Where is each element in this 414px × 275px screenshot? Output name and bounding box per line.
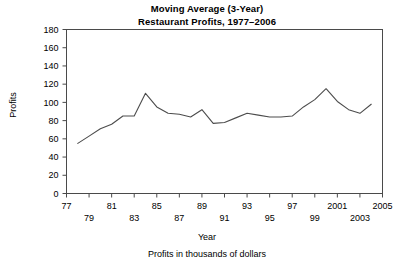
- y-axis-ticks: 020406080100120140160180: [43, 25, 66, 199]
- y-tick-label: 140: [43, 61, 58, 71]
- y-tick-label: 60: [48, 134, 58, 144]
- x-axis-title: Year: [0, 232, 414, 242]
- y-tick-label: 20: [48, 170, 58, 180]
- x-axis-ticks: [67, 194, 383, 198]
- x-axis-labels-upper: 77818589939720012005: [61, 201, 392, 211]
- x-tick-label: 2005: [372, 201, 392, 211]
- x-tick-label: 2003: [350, 213, 370, 223]
- y-tick-label: 180: [43, 25, 58, 35]
- y-tick-label: 40: [48, 152, 58, 162]
- y-tick-label: 160: [43, 43, 58, 53]
- y-tick-label: 80: [48, 116, 58, 126]
- x-tick-label: 97: [287, 201, 297, 211]
- x-tick-label: 83: [129, 213, 139, 223]
- x-tick-label: 99: [310, 213, 320, 223]
- x-tick-label: 2001: [327, 201, 347, 211]
- chart-footnote: Profits in thousands of dollars: [0, 249, 414, 259]
- y-tick-label: 120: [43, 79, 58, 89]
- x-tick-label: 93: [242, 201, 252, 211]
- x-tick-label: 79: [84, 213, 94, 223]
- x-tick-label: 81: [107, 201, 117, 211]
- x-tick-label: 77: [61, 201, 71, 211]
- x-axis-labels-lower: 7983879195992003: [84, 213, 370, 223]
- plot-frame: [67, 30, 383, 194]
- x-tick-label: 91: [219, 213, 229, 223]
- y-tick-label: 100: [43, 98, 58, 108]
- chart-figure: Moving Average (3-Year) Restaurant Profi…: [0, 0, 414, 275]
- data-line-series-0: [78, 89, 371, 144]
- x-tick-label: 95: [265, 213, 275, 223]
- x-tick-label: 87: [174, 213, 184, 223]
- x-tick-label: 85: [152, 201, 162, 211]
- y-tick-label: 0: [53, 189, 58, 199]
- x-tick-label: 89: [197, 201, 207, 211]
